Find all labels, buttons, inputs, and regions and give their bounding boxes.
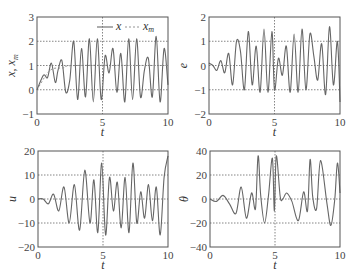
- y-tick-label: −10: [18, 217, 36, 229]
- y-tick-label: 10: [24, 169, 36, 181]
- y-tick-label: −1: [194, 84, 206, 96]
- y-tick-label: −40: [190, 241, 208, 253]
- x-tick-label: 10: [335, 116, 347, 128]
- y-axis-label: x, xm: [4, 54, 20, 78]
- legend: xxm: [97, 19, 154, 34]
- y-tick-label: −20: [190, 217, 208, 229]
- y-tick-label: 20: [196, 169, 208, 181]
- y-tick-label: 0: [201, 60, 207, 72]
- y-tick-label: 1: [29, 60, 35, 72]
- y-tick-label: 0: [29, 84, 35, 96]
- y-axis-label: θ: [177, 196, 191, 202]
- y-tick-label: 20: [24, 145, 36, 157]
- legend-x-label: x: [115, 19, 122, 33]
- y-tick-label: −2: [194, 108, 206, 120]
- plot-x-xm: −101230510tx, xmxxm: [4, 11, 174, 139]
- x-tick-label: 10: [335, 249, 347, 261]
- figure-2x2-plots: −101230510tx, xmxxm−2−10120510te−20−1001…: [0, 0, 347, 272]
- x-tick-label: 10: [163, 249, 175, 261]
- x-tick-label: 10: [163, 116, 175, 128]
- x-tick-label: 0: [207, 249, 213, 261]
- y-tick-label: 1: [201, 35, 207, 47]
- y-tick-label: 0: [30, 193, 36, 205]
- y-axis-label: e: [176, 62, 190, 68]
- legend-xm-label: xm: [142, 19, 154, 34]
- plot-theta: −40−20020400510tθ: [177, 145, 346, 272]
- series-main: [209, 27, 340, 102]
- y-tick-label: 2: [201, 11, 207, 23]
- plot-e: −2−10120510te: [176, 11, 346, 139]
- y-axis-label: u: [5, 196, 19, 202]
- y-tick-label: −1: [22, 108, 34, 120]
- x-tick-label: 0: [206, 116, 212, 128]
- x-tick-label: 0: [35, 249, 41, 261]
- y-tick-label: −20: [18, 241, 36, 253]
- y-tick-label: 3: [29, 11, 35, 23]
- x-tick-label: 0: [34, 116, 40, 128]
- y-tick-label: 0: [202, 193, 208, 205]
- plot-u: −20−10010200510tu: [5, 145, 174, 272]
- y-tick-label: 2: [29, 35, 35, 47]
- y-tick-label: 40: [196, 145, 208, 157]
